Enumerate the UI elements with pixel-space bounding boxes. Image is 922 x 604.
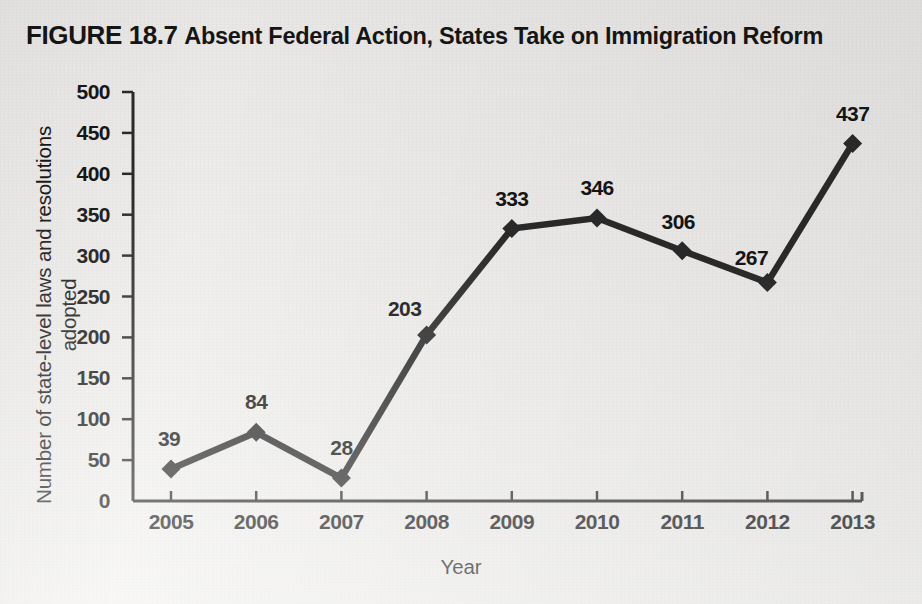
data-point-value-label: 203	[388, 297, 421, 321]
x-tick-label: 2008	[404, 510, 449, 534]
data-point-marker	[673, 241, 692, 260]
x-tick-label: 2013	[830, 510, 875, 534]
data-point-marker	[588, 208, 607, 227]
data-point-value-label: 39	[158, 427, 180, 451]
y-axis-ticks	[122, 92, 133, 501]
data-point-value-label: 346	[580, 176, 613, 200]
data-point-value-label: 84	[245, 390, 267, 414]
x-tick-label: 2012	[745, 510, 790, 534]
x-tick-label: 2005	[149, 510, 194, 534]
x-tick-label: 2011	[660, 510, 704, 534]
data-point-value-label: 333	[495, 187, 528, 211]
x-tick-label: 2009	[489, 510, 534, 534]
x-tick-label: 2006	[234, 510, 279, 534]
line-chart: 050100150200250300350400450500 200520062…	[0, 0, 922, 604]
x-axis-title: Year	[0, 555, 922, 579]
data-point-value-label: 267	[735, 246, 768, 270]
x-tick-label: 2010	[575, 510, 620, 534]
data-point-value-label: 28	[330, 436, 352, 460]
y-axis-title: Number of state-level laws and resolutio…	[31, 105, 81, 525]
data-point-marker	[162, 460, 181, 479]
data-point-value-label: 437	[836, 102, 869, 126]
y-tick-label: 500	[48, 80, 110, 104]
x-tick-label: 2007	[319, 510, 364, 534]
data-point-value-label: 306	[662, 210, 695, 234]
